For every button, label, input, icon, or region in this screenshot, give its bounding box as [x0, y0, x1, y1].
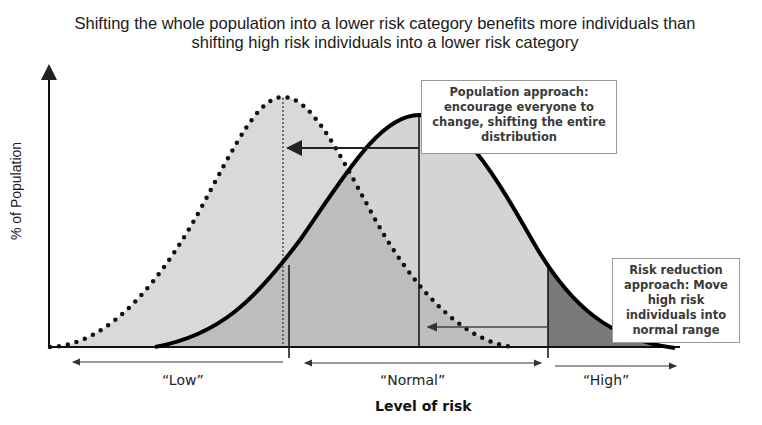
x-axis-label: Level of risk — [375, 398, 472, 414]
distribution-diagram — [0, 0, 762, 425]
risk-reduction-callout: Risk reduction approach: Move high risk … — [612, 258, 740, 343]
category-normal-label: “Normal” — [380, 372, 445, 388]
category-high-label: “High” — [583, 372, 629, 388]
category-low-label: “Low” — [162, 372, 204, 388]
population-approach-callout: Population approach: encourage everyone … — [421, 80, 617, 154]
